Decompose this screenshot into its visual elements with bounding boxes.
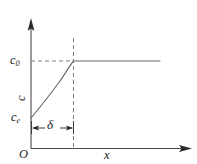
x-axis-label: x (104, 149, 110, 162)
label-c-zero-subscript: 0 (16, 59, 20, 68)
y-axis-label: c (14, 95, 29, 101)
label-delta: δ (47, 118, 53, 131)
concentration-profile-figure: c0 ce c δ O x (0, 0, 197, 164)
label-c-e: ce (11, 111, 20, 126)
label-c-e-subscript: e (17, 116, 21, 125)
x-axis (31, 145, 192, 152)
figure-canvas (0, 0, 197, 164)
label-c-zero: c0 (10, 54, 20, 69)
label-origin: O (19, 148, 28, 161)
concentration-curve (31, 61, 160, 118)
